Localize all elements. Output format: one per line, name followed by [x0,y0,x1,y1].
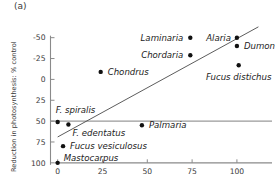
data-point [188,53,192,57]
data-point-label: Palmaria [149,120,187,130]
data-point-label: Chordaria [141,50,183,60]
x-tick-label: 100 [230,167,245,176]
y-tick-label: 50 [36,117,46,126]
data-point-label: Fucus vesiculosus [70,141,147,151]
chart-figure: (a) Reduction in photosynthesis: % contr… [0,0,275,181]
data-point [235,35,239,39]
data-point [66,122,70,126]
data-point-label: F. spiralis [56,105,96,115]
data-point-label: Alaria [205,33,231,43]
data-point-label: Fucus distichus [206,72,272,82]
data-point-label: Laminaria [141,33,184,43]
data-point-label: F. edentatus [72,128,125,138]
data-point [55,120,59,124]
x-tick-label: 0 [55,167,60,176]
data-point-label: Mastocarpus [64,153,119,163]
data-point-label: Dumontia [244,41,275,51]
x-tick-label: 75 [187,167,197,176]
y-tick-label: -25 [33,54,46,63]
x-tick-label: 50 [142,167,152,176]
data-point [235,44,239,48]
data-point [140,123,144,127]
data-point [55,161,59,165]
y-tick-label: 25 [36,96,46,105]
y-tick-label: -50 [33,33,46,42]
y-tick-label: 100 [31,159,46,168]
data-point [188,35,192,39]
scatter-plot: F. spiralisMastocarpusFucus vesiculosusF… [0,0,275,181]
y-tick-label: 0 [41,75,46,84]
data-point [236,63,240,67]
data-point [98,70,102,74]
y-tick-label: 75 [36,138,46,147]
point-labels-group: F. spiralisMastocarpusFucus vesiculosusF… [56,33,275,163]
x-tick-label: 25 [98,167,108,176]
data-point [61,144,65,148]
data-point-label: Chondrus [108,67,150,77]
